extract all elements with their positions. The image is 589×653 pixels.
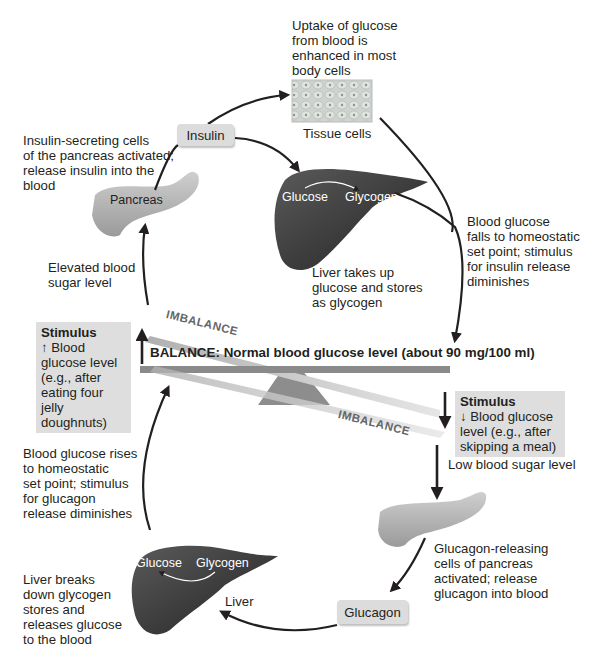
glucose-falls-caption: Blood glucose falls to homeostatic set p…	[467, 214, 580, 289]
liver-label: Liver	[225, 594, 254, 609]
balance-beam	[140, 366, 450, 373]
stimulus-low-text: ↓ Blood glucose level (e.g., after skipp…	[460, 409, 556, 454]
arrow-glucagon-to-liver	[222, 612, 337, 630]
stimulus-low-title: Stimulus	[460, 394, 560, 409]
glucagon-release-caption: Glucagon-releasing cells of pancreas act…	[434, 541, 548, 601]
tissue-cells-label: Tissue cells	[303, 126, 371, 141]
liver-stores-caption: Liver takes up glucose and stores as gly…	[312, 265, 423, 310]
stimulus-low-box: Stimulus ↓ Blood glucose level (e.g., af…	[455, 391, 565, 457]
liver-bottom-glucose-label: Glucose	[136, 556, 182, 570]
arrow-insulin-to-liver	[235, 138, 298, 170]
glucose-homeostasis-diagram: Uptake of glucose from blood is enhanced…	[0, 0, 589, 653]
pancreas-bottom-image	[378, 492, 486, 547]
tissue-uptake-caption: Uptake of glucose from blood is enhanced…	[292, 18, 398, 78]
insulin-hormone-box: Insulin	[177, 124, 234, 146]
insulin-secretion-caption: Insulin-secreting cells of the pancreas …	[23, 133, 174, 193]
liver-bottom-glycogen-label: Glycogen	[196, 556, 249, 570]
liver-top-glycogen-label: Glycogen	[345, 190, 398, 204]
tissue-cells-image	[292, 80, 372, 122]
balance-label: BALANCE: Normal blood glucose level (abo…	[150, 345, 535, 360]
low-sugar-caption: Low blood sugar level	[448, 457, 576, 472]
arrow-elevated-to-pancreas	[143, 226, 148, 305]
elevated-sugar-caption: Elevated blood sugar level	[48, 260, 135, 290]
liver-top-image	[275, 169, 428, 270]
stimulus-high-box: Stimulus ↑ Blood glucose level (e.g., af…	[36, 322, 131, 433]
liver-top-glucose-label: Glucose	[282, 190, 328, 204]
pancreas-label: Pancreas	[110, 193, 163, 208]
arrow-insulin-to-tissue	[208, 95, 287, 124]
liver-breakdown-caption: Liver breaks down glycogen stores and re…	[23, 572, 122, 647]
glucagon-hormone-box: Glucagon	[337, 600, 408, 624]
arrow-tissue-to-balance	[380, 118, 453, 232]
stimulus-high-text: ↑ Blood glucose level (e.g., after eatin…	[41, 340, 117, 430]
arrow-liver-to-balance	[143, 388, 168, 530]
glucose-rises-caption: Blood glucose rises to homeostatic set p…	[23, 446, 137, 521]
stimulus-high-title: Stimulus	[41, 325, 126, 340]
